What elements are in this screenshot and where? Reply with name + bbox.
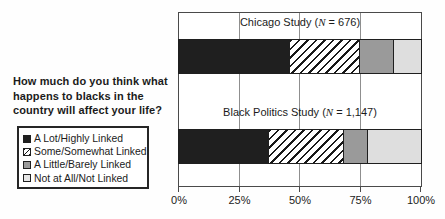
legend-label: A Lot/Highly Linked [34,133,123,144]
group-title-n: N [318,16,325,28]
bar-segment [394,40,421,73]
black-swatch-icon [23,135,31,143]
gray-swatch-icon [23,161,31,169]
axis-tick-label: 25% [228,194,250,206]
plot-area: Chicago Study (N = 676)Black Politics St… [178,12,422,187]
group-title-text: Chicago Study ( [240,16,318,28]
legend-item: Not at All/Not Linked [23,172,144,185]
legend-label: A Little/Barely Linked [34,159,131,170]
group-title-text: = 1,147) [333,106,377,118]
figure: How much do you think whathappens to bla… [0,0,445,219]
axis-tick [299,187,300,192]
axis-tick [360,187,361,192]
legend-item: A Little/Barely Linked [23,158,144,171]
bar-segment [344,130,368,163]
bar-segment [368,130,421,163]
axis-tick-label: 50% [289,194,311,206]
bar-segment [179,40,290,73]
stacked-bar [178,129,422,164]
axis-tick [178,187,179,192]
legend: A Lot/Highly LinkedSome/Somewhat LinkedA… [17,126,149,189]
group-title-text: = 676) [326,16,361,28]
axis-tick-label: 75% [349,194,371,206]
legend-item: A Lot/Highly Linked [23,132,144,145]
bar-segment [360,40,394,73]
bar-segment [269,130,344,163]
group-title-text: Black Politics Study ( [223,106,326,118]
axis-tick-label: 100% [407,194,435,206]
stacked-bar [178,39,422,74]
legend-label: Some/Somewhat Linked [34,146,147,157]
bar-segment [179,130,269,163]
group-title: Chicago Study (N = 676) [179,16,421,28]
axis-tick [239,187,240,192]
lightgray-swatch-icon [23,174,31,182]
axis-tick [420,187,421,192]
question-line: happens to blacks in the [13,89,183,104]
bar-segment [290,40,360,73]
question-line: How much do you think what [13,74,183,89]
legend-item: Some/Somewhat Linked [23,145,144,158]
axis-tick-label: 0% [171,194,187,206]
question-text: How much do you think whathappens to bla… [13,74,183,118]
group-title: Black Politics Study (N = 1,147) [179,106,421,118]
hatched-swatch-icon [23,148,31,156]
question-line: country will affect your life? [13,103,183,118]
legend-label: Not at All/Not Linked [34,173,128,184]
